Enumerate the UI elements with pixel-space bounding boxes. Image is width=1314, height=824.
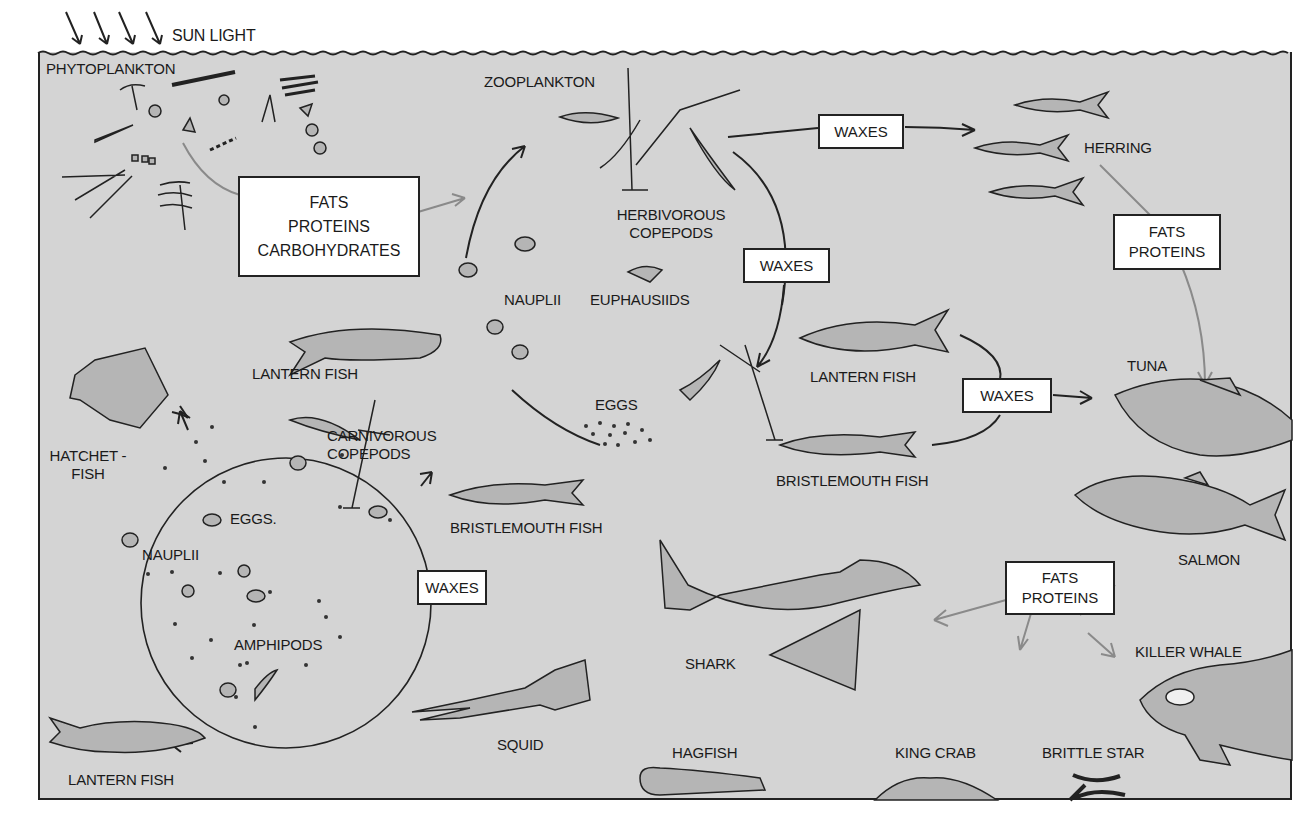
label-phytoplankton: PHYTOPLANKTON	[46, 60, 175, 78]
king-crab-icon	[875, 778, 997, 800]
label-king-crab: KING CRAB	[895, 744, 976, 762]
label-salmon: SALMON	[1178, 551, 1240, 569]
label-carnivorous-copepods: CARNIVOROUS COPEPODS	[327, 427, 436, 463]
euphausiid-icon	[628, 266, 662, 282]
box-fats-proteins-salmon-predators: FATS PROTEINS	[1005, 561, 1115, 615]
label-lantern-fish-right: LANTERN FISH	[810, 368, 916, 386]
tuna-icon	[1115, 378, 1292, 456]
label-bristlemouth-fish-right: BRISTLEMOUTH FISH	[776, 472, 928, 490]
box-fats-proteins-carbohydrates: FATS PROTEINS CARBOHYDRATES	[238, 176, 420, 277]
salmon-icon	[1075, 472, 1285, 540]
organisms	[50, 68, 1292, 800]
hagfish-icon	[640, 767, 765, 795]
label-nauplii-top: NAUPLII	[504, 291, 561, 309]
box-waxes-deep-cycle: WAXES	[417, 570, 487, 605]
food-web-diagram: SUN LIGHT	[0, 0, 1314, 824]
label-tuna: TUNA	[1127, 357, 1167, 375]
amphipod-icon	[255, 670, 277, 700]
squid-icon	[412, 660, 590, 720]
label-lantern-fish-bottom: LANTERN FISH	[68, 771, 174, 789]
flow-arrows-layer	[0, 0, 1314, 824]
water-surface-line	[38, 52, 1288, 55]
bristlemouth-fish-icon	[450, 432, 915, 505]
box-waxes-to-tuna: WAXES	[962, 378, 1052, 413]
label-shark: SHARK	[685, 655, 736, 673]
label-eggs-top: EGGS	[595, 396, 638, 414]
killer-whale-icon	[1140, 650, 1292, 765]
box-waxes-copepod-cycle: WAXES	[743, 248, 830, 283]
label-lantern-fish-mid: LANTERN FISH	[252, 365, 358, 383]
hatchetfish-icon	[70, 348, 168, 428]
label-bristlemouth-fish-mid: BRISTLEMOUTH FISH	[450, 519, 602, 537]
label-eggs-bottom: EGGS.	[230, 510, 277, 528]
label-amphipods: AMPHIPODS	[234, 636, 322, 654]
label-brittle-star: BRITTLE STAR	[1042, 744, 1144, 762]
nauplius-icon	[122, 237, 535, 697]
brittle-star-icon	[1070, 775, 1125, 800]
label-killer-whale: KILLER WHALE	[1135, 643, 1242, 661]
label-hagfish: HAGFISH	[672, 744, 737, 762]
label-herring: HERRING	[1084, 139, 1152, 157]
label-hatchetfish: HATCHET - FISH	[48, 447, 128, 483]
label-herbivorous-copepods: HERBIVOROUS COPEPODS	[596, 206, 746, 242]
label-euphausiids: EUPHAUSIIDS	[590, 291, 690, 309]
box-waxes-to-herring: WAXES	[818, 114, 904, 149]
deep-copepod-icon	[680, 345, 783, 440]
label-squid: SQUID	[497, 736, 544, 754]
label-nauplii-bottom: NAUPLII	[142, 546, 199, 564]
label-zooplankton: ZOOPLANKTON	[484, 73, 595, 91]
box-fats-proteins-herring-tuna: FATS PROTEINS	[1113, 214, 1221, 270]
